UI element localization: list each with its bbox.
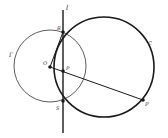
point-o (48, 65, 52, 69)
label-p: P (65, 65, 70, 71)
label-gamma: Γ (8, 51, 14, 58)
point-s (61, 99, 65, 103)
segment-or (50, 32, 63, 67)
label-p-prime: P′ (144, 101, 150, 107)
label-c: C (148, 40, 152, 46)
label-s: S (56, 105, 60, 111)
label-o: O (43, 60, 47, 66)
point-r (61, 30, 65, 34)
label-r: R (56, 25, 61, 31)
point-p (61, 69, 65, 73)
geometry-diagram: l Γ C R O P S P′ (0, 0, 168, 138)
label-line-l: l (66, 4, 68, 12)
